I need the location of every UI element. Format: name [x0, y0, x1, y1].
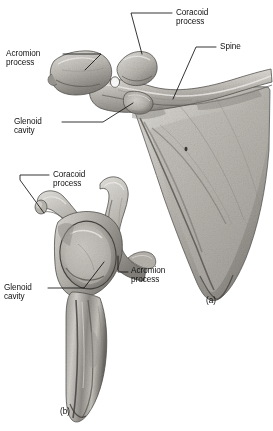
label-coracoid-process-a-line2: process	[176, 17, 204, 26]
label-glenoid-cavity-b-line1: Glenoid	[4, 283, 32, 292]
label-coracoid-process-b-line1: Coracoid	[53, 170, 85, 179]
label-acromion-process-a-line2: process	[6, 58, 34, 67]
label-glenoid-cavity-b-line2: cavity	[4, 292, 25, 301]
label-acromion-process-b-line2: process	[131, 275, 159, 284]
label-coracoid-process-a-line1: Coracoid	[176, 8, 208, 17]
label-coracoid-process-b-line2: process	[53, 179, 81, 188]
label-glenoid-cavity-a-line1: Glenoid	[14, 117, 42, 126]
label-acromion-process-a-line1: Acromion	[6, 49, 40, 58]
label-glenoid-cavity-a-line2: cavity	[14, 126, 35, 135]
suprascapular-notch-inner-a	[112, 80, 118, 86]
caption-view-b: (b)	[60, 407, 70, 416]
label-spine-a: Spine	[220, 42, 241, 51]
scapula-illustration-svg	[0, 0, 273, 431]
label-acromion-process-b-line1: Acromion	[131, 266, 165, 275]
caption-view-a: (a)	[206, 296, 216, 305]
nutrient-foramen-a	[185, 147, 188, 151]
